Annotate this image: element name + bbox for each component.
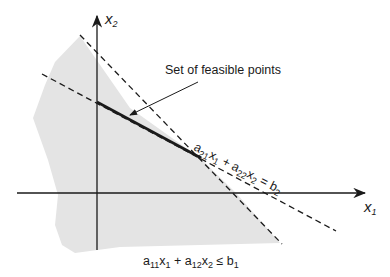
ineq-a1-sub: 11	[150, 260, 159, 270]
x1-sub: 1	[372, 207, 377, 217]
diagram-canvas	[0, 0, 390, 277]
x2-axis-label: x2	[105, 10, 118, 29]
x1-axis-label: x1	[364, 198, 377, 217]
inequality-constraint-label: a11x1 + a12x2 ≤ b1	[143, 254, 239, 270]
ineq-rel: ≤	[213, 254, 227, 268]
ineq-plus: +	[171, 254, 185, 268]
ineq-a1: a	[143, 254, 150, 268]
annotation-arrow	[130, 82, 198, 115]
x2-sub: 2	[113, 19, 118, 29]
ineq-a2: a	[185, 254, 192, 268]
ineq-rhs-sub: 1	[234, 260, 239, 270]
ineq-rhs: b	[227, 254, 234, 268]
feasible-points-label: Set of feasible points	[165, 63, 281, 77]
x1-var: x	[364, 198, 372, 215]
ineq-a2-sub: 12	[192, 260, 202, 270]
x2-var: x	[105, 10, 113, 27]
